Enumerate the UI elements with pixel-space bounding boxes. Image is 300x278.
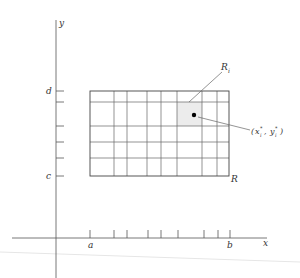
- y-axis-ticks: [56, 91, 64, 176]
- y-end-label-d: d: [46, 86, 52, 96]
- svg-text:*: *: [260, 125, 263, 131]
- partition-grid: [90, 91, 229, 176]
- x-end-label-b: b: [227, 240, 233, 250]
- highlighted-subrectangle: [177, 102, 202, 126]
- x-start-label-a: a: [88, 240, 93, 250]
- svg-text:R: R: [220, 62, 228, 72]
- x-axis-ticks: [90, 230, 230, 238]
- scan-artifact-line: [0, 252, 300, 262]
- rectangle-R-border: [90, 91, 229, 176]
- diagram-canvas: y x a b d c R R i ( x i * , y i * ): [0, 0, 300, 278]
- region-label-R: R: [230, 174, 238, 184]
- svg-text:): ): [279, 127, 283, 136]
- sample-point-leader-line: [198, 117, 250, 130]
- svg-text:i: i: [228, 67, 230, 74]
- sample-point-label: ( x i * , y i * ): [251, 125, 283, 138]
- sample-point-dot: [192, 113, 196, 117]
- y-start-label-c: c: [46, 171, 51, 181]
- y-axis-label: y: [58, 18, 65, 28]
- riemann-partition-diagram: y x a b d c R R i ( x i * , y i * ): [0, 0, 300, 278]
- svg-text:i: i: [275, 132, 277, 138]
- svg-text:i: i: [260, 132, 262, 138]
- svg-text:*: *: [275, 125, 278, 131]
- x-axis-label: x: [263, 238, 268, 248]
- svg-text:,: ,: [264, 127, 267, 136]
